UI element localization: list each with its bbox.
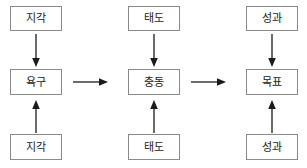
arrow-up-column2 (148, 99, 160, 133)
arrow-right-column2-to-column3 (191, 76, 227, 88)
arrow-down-column3 (266, 34, 278, 68)
arrow-up-column3 (266, 99, 278, 133)
arrow-up-column1 (30, 99, 42, 133)
node-column1-top: 지각 (10, 6, 62, 31)
node-column3-top: 성과 (246, 6, 298, 31)
node-column2-bottom: 태도 (128, 134, 180, 160)
flow-diagram: 지각 욕구 지각 태도 충동 태도 (0, 0, 307, 168)
node-column3-bottom: 성과 (246, 134, 298, 160)
node-column1-middle: 욕구 (10, 69, 62, 95)
node-column1-bottom: 지각 (10, 134, 62, 160)
node-column3-middle: 목표 (246, 69, 298, 95)
arrow-down-column2 (148, 34, 160, 68)
arrow-down-column1 (30, 34, 42, 68)
node-column2-top: 태도 (128, 6, 180, 31)
node-column2-middle: 충동 (128, 69, 180, 95)
arrow-right-column1-to-column2 (73, 76, 109, 88)
